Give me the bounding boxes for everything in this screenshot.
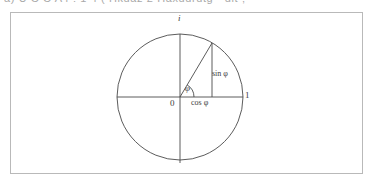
imaginary-axis-label: i [178,14,181,23]
clipped-header-text: a) U C C A4 : 1 4 ( Hkuaz 2 Haxuurutg - … [4,0,246,4]
unit-real-label: 1 [245,91,250,100]
figure-frame [10,12,363,174]
cosine-label: cos φ [191,99,208,107]
sine-label: sin φ [212,70,228,78]
angle-phi-label: φ [185,84,190,93]
clipped-header-text-strip: a) U C C A4 : 1 4 ( Hkuaz 2 Haxuurutg - … [0,0,374,9]
origin-label: 0 [170,99,175,108]
